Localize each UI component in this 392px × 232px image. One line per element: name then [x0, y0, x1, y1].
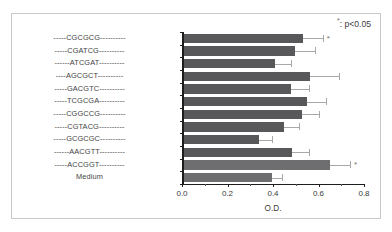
- category-label: Medium: [12, 171, 167, 184]
- error-bar: [275, 64, 291, 65]
- error-bar-cap: [319, 111, 320, 118]
- x-axis-tick: [364, 184, 365, 187]
- bar: [184, 122, 284, 131]
- bar-row: [184, 95, 366, 108]
- bar-row: [184, 146, 366, 159]
- x-axis-minor-tick: [250, 184, 251, 186]
- x-axis-minor-tick: [296, 184, 297, 186]
- category-label: -----CGATCG----------: [12, 45, 167, 58]
- error-bar-cap: [326, 98, 327, 105]
- significance-legend: *: p<0.05: [337, 17, 371, 29]
- category-label: ------ATCGAT----------: [12, 57, 167, 70]
- category-label: -----CGCGCG----------: [12, 32, 167, 45]
- y-axis-tick: [180, 171, 183, 172]
- error-bar: [330, 165, 350, 166]
- bar: [184, 110, 302, 119]
- bar: [184, 148, 292, 157]
- x-axis-tick-label: 0.8: [358, 189, 369, 198]
- x-axis-tick-label: 0.6: [313, 189, 324, 198]
- bar-row: [184, 121, 366, 134]
- error-bar: [310, 76, 338, 77]
- y-axis-tick: [180, 146, 183, 147]
- category-label-column: -----CGCGCG---------------CGATCG--------…: [12, 32, 167, 184]
- bar-row: [184, 70, 366, 83]
- category-label: -----GCGCGC----------: [12, 133, 167, 146]
- legend-label: : p<0.05: [340, 19, 371, 29]
- error-bar: [259, 140, 272, 141]
- bar-row: [184, 45, 366, 58]
- y-axis-tick: [180, 133, 183, 134]
- x-axis-tick: [319, 184, 320, 187]
- bar-row: *: [184, 159, 366, 172]
- error-bar-cap: [323, 35, 324, 42]
- bar-row: [184, 83, 366, 96]
- x-axis-minor-tick: [341, 184, 342, 186]
- category-label: -----CGGCCG----------: [12, 108, 167, 121]
- y-axis-tick: [180, 70, 183, 71]
- significance-star: *: [327, 33, 330, 44]
- bar: [184, 84, 291, 93]
- y-axis-tick: [180, 121, 183, 122]
- error-bar: [307, 102, 326, 103]
- category-label: ------AACGTT----------: [12, 146, 167, 159]
- bar-row: [184, 108, 366, 121]
- bar-row: [184, 133, 366, 146]
- plot-area: O.D. **0.00.20.40.60.8: [182, 32, 376, 184]
- category-label: ----AGCGCT----------: [12, 70, 167, 83]
- y-axis-tick: [180, 32, 183, 33]
- error-bar: [291, 89, 309, 90]
- x-axis-tick: [182, 184, 183, 187]
- error-bar: [295, 51, 314, 52]
- category-label: -----GACGTC----------: [12, 83, 167, 96]
- bar: [184, 59, 275, 68]
- error-bar-cap: [291, 60, 292, 67]
- error-bar: [302, 114, 319, 115]
- x-axis-tick: [273, 184, 274, 187]
- error-bar-cap: [339, 73, 340, 80]
- x-axis-tick-label: 0.2: [222, 189, 233, 198]
- error-bar: [284, 127, 299, 128]
- error-bar-cap: [309, 85, 310, 92]
- y-axis-tick: [180, 45, 183, 46]
- error-bar-cap: [272, 136, 273, 143]
- error-bar: [292, 152, 309, 153]
- bar-row: [184, 171, 366, 184]
- y-axis-tick: [180, 108, 183, 109]
- significance-star: *: [354, 159, 357, 170]
- y-axis-tick: [180, 57, 183, 58]
- x-axis-tick-label: 0.4: [267, 189, 278, 198]
- error-bar: [272, 178, 282, 179]
- bar: [184, 46, 295, 55]
- x-axis-tick: [228, 184, 229, 187]
- error-bar-cap: [315, 47, 316, 54]
- x-axis-title: O.D.: [265, 204, 282, 213]
- x-axis-minor-tick: [205, 184, 206, 186]
- y-axis-tick: [180, 95, 183, 96]
- figure-panel: -----CGCGCG---------------CGATCG--------…: [11, 13, 381, 219]
- bar: [184, 173, 272, 182]
- category-label: -----CGTACG----------: [12, 121, 167, 134]
- error-bar-cap: [309, 149, 310, 156]
- bar-row: *: [184, 32, 366, 45]
- y-axis-tick: [180, 83, 183, 84]
- bar-row: [184, 57, 366, 70]
- bar: [184, 97, 307, 106]
- y-axis-tick: [180, 159, 183, 160]
- bar: [184, 34, 303, 43]
- error-bar-cap: [350, 161, 351, 168]
- error-bar-cap: [299, 123, 300, 130]
- error-bar: [303, 38, 322, 39]
- category-label: -----ACCGGT----------: [12, 159, 167, 172]
- x-axis-tick-label: 0.0: [176, 189, 187, 198]
- bar: [184, 160, 330, 169]
- category-label: -----TCGCGA----------: [12, 95, 167, 108]
- bar: [184, 72, 310, 81]
- error-bar-cap: [282, 174, 283, 181]
- bar: [184, 135, 259, 144]
